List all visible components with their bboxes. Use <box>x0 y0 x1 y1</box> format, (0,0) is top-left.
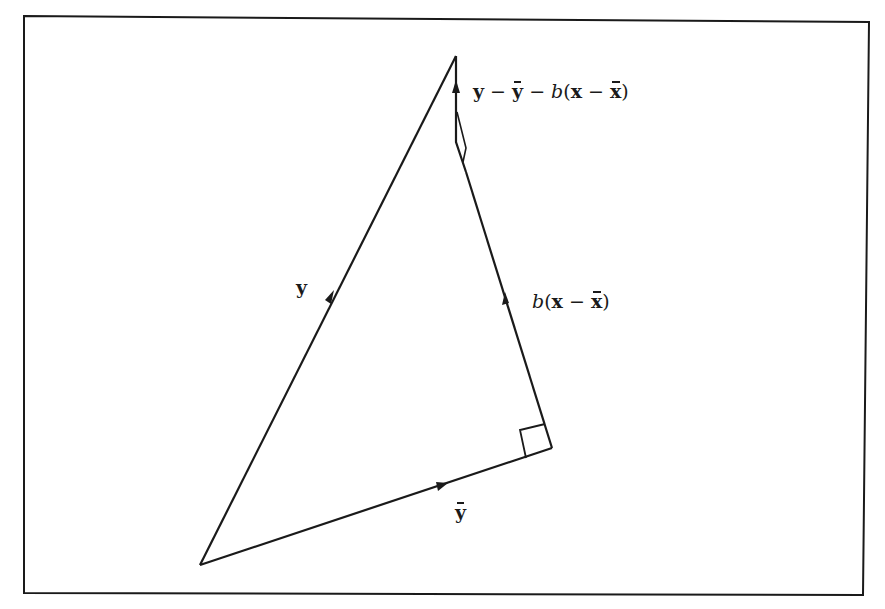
vector-y-line <box>200 56 456 565</box>
arrowhead-ybar-icon <box>436 482 448 491</box>
label-residual-xbar: x <box>610 82 621 101</box>
label-residual-b: b <box>551 80 563 102</box>
label-residual-y: y <box>473 80 484 102</box>
label-residual: y − y − b(x − x) <box>473 82 629 101</box>
label-bx: b(x − x) <box>532 292 610 311</box>
label-bx-xbar: x <box>591 292 602 311</box>
label-y-text: y <box>296 276 307 298</box>
label-residual-close: ) <box>621 80 628 102</box>
label-bx-x: x <box>552 290 563 312</box>
right-angle-marker-top-icon <box>457 112 466 162</box>
label-bx-close: ) <box>602 290 609 312</box>
label-residual-m2: − <box>523 80 551 102</box>
label-residual-m3: − <box>582 80 610 102</box>
vector-ybar-line <box>200 448 552 565</box>
label-ybar: y <box>455 503 466 522</box>
figure-frame <box>24 16 869 595</box>
label-ybar-text: y <box>455 503 466 522</box>
vector-decomposition-diagram <box>0 0 885 609</box>
label-y: y <box>296 278 307 297</box>
label-bx-minus: − <box>563 290 591 312</box>
label-residual-x: x <box>571 80 582 102</box>
label-bx-open: ( <box>544 290 551 312</box>
arrowhead-residual-icon <box>452 80 460 93</box>
label-residual-open: ( <box>563 80 570 102</box>
label-bx-b: b <box>532 290 544 312</box>
right-angle-marker-foot-icon <box>520 424 545 458</box>
label-residual-ybar: y <box>512 82 523 101</box>
label-residual-m1: − <box>484 80 512 102</box>
